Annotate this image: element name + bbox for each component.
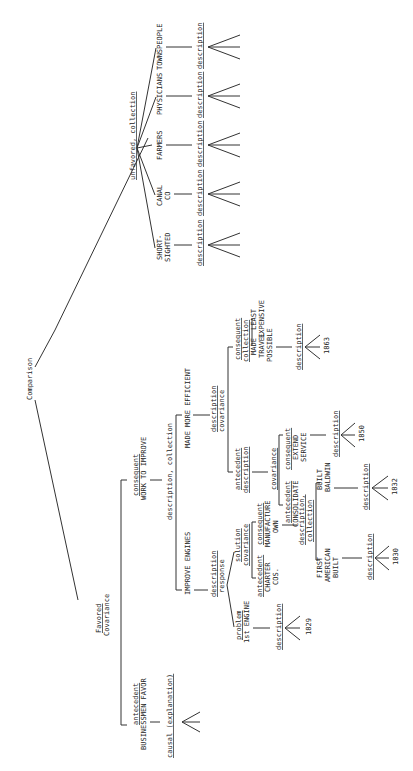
ie-rel-bottom: response bbox=[218, 559, 226, 593]
solution-bottom: covariance bbox=[242, 524, 250, 566]
mme-cons-bottom: collection bbox=[242, 320, 250, 362]
mme-a-role: antecedent bbox=[284, 481, 292, 523]
collection-bottom: collection bbox=[306, 500, 314, 542]
item1-desc: description bbox=[366, 534, 374, 580]
uf-item4-l1: TOWNSPEOPLE bbox=[156, 24, 164, 70]
sol-antecedent-l1: CHARTER bbox=[264, 562, 272, 592]
favored-bottom: Covariance bbox=[103, 594, 111, 636]
uf-item1-desc: description bbox=[196, 170, 204, 216]
problem-year: 1829 bbox=[305, 618, 313, 635]
mme-cons-desc: description bbox=[295, 324, 303, 370]
tree-diagram: Comparison Favored Covariance antecedent… bbox=[0, 0, 413, 771]
antecedent-text: BUSINESSMEN FAVOR bbox=[140, 678, 148, 750]
sol-consequent-l1: MANUFACTURE bbox=[264, 501, 272, 547]
favored-bracket bbox=[121, 480, 127, 725]
sol-consequent-role: consequent bbox=[256, 503, 264, 545]
mme-label: MADE MORE EFFICIENT bbox=[184, 367, 192, 448]
unfavored-label: unfavored, collection bbox=[129, 91, 137, 180]
mme-rel-top: description bbox=[210, 386, 218, 432]
mme-cov: covariance bbox=[270, 448, 278, 490]
consequent-node: consequent WORK TO IMPROVE description, … bbox=[132, 415, 182, 590]
mme-i2-l1: LEAST bbox=[250, 308, 258, 330]
mme-ant-top: antecedent bbox=[234, 448, 242, 490]
item2-desc: description bbox=[362, 464, 370, 510]
uf-item0-desc: description bbox=[196, 220, 204, 266]
item1-l2: AMERICAN bbox=[324, 548, 332, 582]
sol-antecedent-role: antecedent bbox=[256, 555, 264, 597]
mme-rel-bottom: covariance bbox=[218, 390, 226, 432]
uf-item1-l2: CO bbox=[164, 192, 172, 200]
item1-year: 1830 bbox=[392, 548, 400, 565]
uf-item1-l1: CANAL bbox=[156, 185, 164, 206]
item2-l1: BUILT bbox=[316, 468, 324, 490]
improve-engines-label: IMPROVE ENGINES bbox=[184, 532, 192, 595]
sol-antecedent-l2: COS. bbox=[272, 568, 280, 585]
unfavored-subtree: unfavored, collection SHORT- SIGHTED des… bbox=[129, 23, 240, 266]
mme-i1-l3: POSSIBLE bbox=[266, 328, 274, 362]
uf-item0-l1: SHORT- bbox=[156, 235, 164, 260]
uf-item3-desc: description bbox=[196, 72, 204, 118]
mme-c-l1: EXTEND bbox=[292, 435, 300, 460]
problem-desc: description bbox=[275, 604, 283, 650]
consequent-text: WORK TO IMPROVE bbox=[140, 437, 148, 500]
uf-item2-l1: FARMERS bbox=[156, 130, 164, 160]
antecedent-node: antecedent BUSINESSMEN FAVOR causal (exp… bbox=[132, 674, 200, 758]
mme-a-text: CONSOLIDATE bbox=[292, 481, 300, 527]
uf-item3-l1: PHYSICIANS bbox=[156, 73, 164, 115]
item1-l1: FIRST bbox=[316, 556, 324, 578]
uf-item0-l2: SIGHTED bbox=[164, 232, 172, 262]
sol-consequent-l2: OWN bbox=[272, 520, 280, 533]
solution-top: solution bbox=[234, 528, 242, 562]
mme-c-l2: SERVICE bbox=[300, 432, 308, 462]
mme-i1-l1: MADE bbox=[250, 338, 258, 355]
uf-item2-desc: description bbox=[196, 121, 204, 167]
ie-rel-top: description bbox=[210, 551, 218, 597]
root-label: Comparison bbox=[26, 358, 34, 400]
mme-c-role: consequent bbox=[284, 428, 292, 470]
problem-text: 1st ENGINE bbox=[243, 601, 251, 643]
uf-item4-desc: description bbox=[196, 23, 204, 69]
favored-top: Favored bbox=[95, 603, 103, 633]
mme-a-desc: description bbox=[332, 411, 340, 457]
item1-l3: BUILT bbox=[332, 556, 340, 578]
favored-node: Favored Covariance bbox=[95, 594, 111, 636]
problem-role: problem bbox=[235, 610, 243, 640]
consequent-desc: description, collection bbox=[166, 423, 174, 520]
mme-a-year: 1850 bbox=[358, 425, 366, 442]
mme-cons-year: 1863 bbox=[323, 337, 331, 354]
mme-ant-bottom: description bbox=[242, 447, 250, 493]
antecedent-role: antecedent bbox=[132, 683, 140, 725]
item2-year: 1832 bbox=[391, 478, 399, 495]
made-more-efficient-subtree: MADE MORE EFFICIENT description covarian… bbox=[184, 300, 366, 527]
antecedent-desc: causal (explanation) bbox=[166, 674, 174, 758]
mme-i2-l2: EXPENSIVE bbox=[258, 300, 266, 338]
consequent-role: consequent bbox=[132, 454, 140, 496]
item2-l2: BALDWIN bbox=[324, 462, 332, 492]
mme-cons-top: consequent bbox=[234, 318, 242, 360]
root-branches bbox=[35, 138, 148, 600]
